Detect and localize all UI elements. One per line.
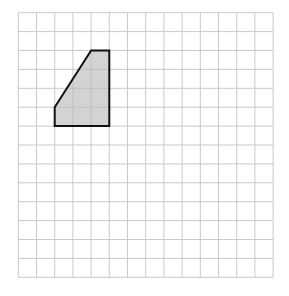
grid-lines (18, 13, 273, 278)
grid-diagram (0, 0, 289, 296)
